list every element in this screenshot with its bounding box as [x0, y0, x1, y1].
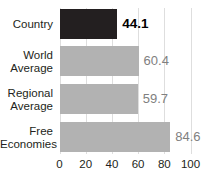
bar-value-free-economies: 84.6	[170, 122, 200, 152]
x-tick-100: 100	[181, 157, 200, 171]
x-axis: 0 20 40 60 80 100	[0, 157, 207, 173]
x-tick-40: 40	[105, 157, 118, 171]
bar-chart: Country World Average Regional Average F…	[0, 0, 207, 181]
bar-world-average	[60, 46, 139, 76]
category-label-world-average: World Average	[0, 49, 53, 74]
bar-regional-average	[60, 84, 138, 114]
bar-free-economies	[60, 122, 171, 152]
bar-row-free-economies: 84.6	[60, 122, 191, 152]
bar-row-regional-average: 59.7	[60, 84, 191, 114]
category-label-regional-average: Regional Average	[0, 87, 53, 112]
category-label-country: Country	[0, 18, 53, 31]
bar-value-country: 44.1	[117, 9, 148, 39]
category-label-free-economies: Free Economies	[0, 125, 53, 150]
x-tick-20: 20	[79, 157, 92, 171]
x-tick-80: 80	[158, 157, 171, 171]
x-tick-0: 0	[56, 157, 62, 171]
x-tick-60: 60	[132, 157, 145, 171]
bar-country	[60, 9, 118, 39]
bar-value-regional-average: 59.7	[138, 84, 168, 114]
bar-row-country: 44.1	[60, 9, 191, 39]
bar-row-world-average: 60.4	[60, 46, 191, 76]
plot-area: 44.1 60.4 59.7 84.6	[60, 8, 191, 154]
bar-value-world-average: 60.4	[139, 46, 169, 76]
